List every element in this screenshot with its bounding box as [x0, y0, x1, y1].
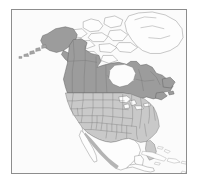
north-america-map: [12, 10, 186, 173]
map-frame: [11, 9, 187, 174]
map-figure: [0, 0, 199, 188]
island-bahamas-b: [164, 149, 170, 153]
region-central-america: [127, 164, 155, 172]
island-cuba: [142, 151, 167, 161]
aleutian-islands: [19, 45, 47, 59]
island-trinidad: [181, 171, 186, 173]
island-puerto-rico: [181, 161, 186, 164]
island-hispaniola: [167, 158, 180, 163]
island-jamaica: [154, 162, 160, 165]
island-bahamas-a: [157, 146, 163, 149]
